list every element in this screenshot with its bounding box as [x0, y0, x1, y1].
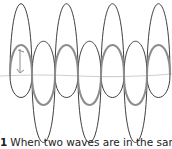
wave-diagram: [0, 0, 172, 149]
resultant-wave: [10, 4, 170, 143]
caption-text: When two waves are in the same: [10, 136, 172, 148]
figure-caption: 1When two waves are in the same: [0, 136, 172, 148]
wave-interference-figure: ) 1When two waves are in the same: [0, 0, 172, 149]
amplitude-arrow-icon: [17, 49, 24, 73]
caption-number: 1: [0, 136, 7, 148]
